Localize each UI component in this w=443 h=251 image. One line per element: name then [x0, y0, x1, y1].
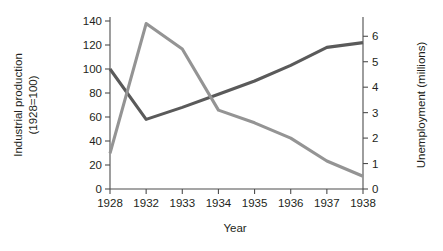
- left-axis-tick-label: 100: [83, 63, 102, 75]
- x-axis-tick-label: 1933: [169, 197, 195, 209]
- right-axis-tick-label: 6: [372, 30, 378, 42]
- x-axis-tick-label: 1938: [350, 197, 376, 209]
- left-axis-tick-label: 140: [83, 15, 102, 27]
- left-axis: 020406080100120140: [83, 15, 110, 195]
- right-axis-tick-label: 5: [372, 56, 378, 68]
- left-axis-tick-label: 40: [89, 135, 102, 147]
- x-axis-tick-label: 1936: [278, 197, 304, 209]
- left-axis-title-line2: (1928=100): [27, 75, 39, 134]
- left-axis-tick-label: 80: [89, 87, 102, 99]
- x-axis-tick-label: 1932: [133, 197, 159, 209]
- left-axis-tick-label: 20: [89, 159, 102, 171]
- series-line-industrial-production: [110, 43, 363, 120]
- left-axis-tick-label: 120: [83, 39, 102, 51]
- left-axis-title: Industrial production (1928=100): [12, 53, 39, 157]
- x-axis-tick-label: 1928: [97, 197, 123, 209]
- x-axis-tick-label: 1935: [242, 197, 268, 209]
- right-axis-title-label: Unemployment (millions): [415, 42, 427, 169]
- x-axis-title: Year: [223, 222, 246, 234]
- dual-axis-line-chart: 020406080100120140 0123456 1928193219331…: [0, 0, 443, 251]
- left-axis-tick-label: 60: [89, 111, 102, 123]
- right-axis-tick-label: 4: [372, 81, 379, 93]
- x-axis: 19281932193319341935193619371938: [97, 189, 376, 209]
- chart-figure: 020406080100120140 0123456 1928193219331…: [0, 0, 443, 251]
- right-axis-tick-label: 3: [372, 107, 378, 119]
- series-lines: [110, 24, 363, 177]
- series-line-unemployment: [110, 24, 363, 177]
- x-axis-tick-label: 1937: [314, 197, 340, 209]
- right-axis-tick-label: 0: [372, 183, 378, 195]
- right-axis-title: Unemployment (millions): [415, 42, 427, 169]
- x-axis-tick-label: 1934: [206, 197, 232, 209]
- right-axis: 0123456: [363, 17, 379, 195]
- left-axis-tick-label: 0: [96, 183, 102, 195]
- left-axis-title-line1: Industrial production: [12, 53, 24, 157]
- right-axis-tick-label: 1: [372, 158, 378, 170]
- right-axis-tick-label: 2: [372, 132, 378, 144]
